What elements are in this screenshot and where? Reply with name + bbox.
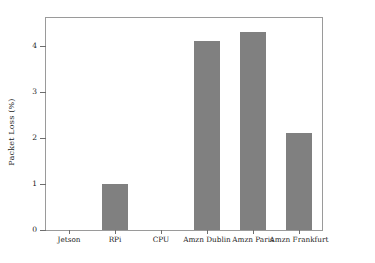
x-axis-tick [69, 230, 70, 234]
x-axis-tick [115, 230, 116, 234]
x-axis-tick [207, 230, 208, 234]
x-axis-tick [253, 230, 254, 234]
x-axis-tick-label: Amzn Dublin [183, 236, 231, 243]
y-axis-tick-label: 2 [32, 134, 37, 142]
bar [286, 133, 312, 230]
bars-group [46, 18, 322, 230]
y-axis-tick-label: 1 [32, 180, 37, 188]
x-axis-tick-label: Amzn Frankfurt [270, 236, 329, 243]
x-axis-tick-label: Amzn Paris [232, 236, 274, 243]
y-axis-tick [40, 230, 46, 231]
y-axis-tick [40, 138, 46, 139]
x-axis-tick-label: Jetson [57, 236, 80, 243]
x-axis-tick [299, 230, 300, 234]
bar [240, 32, 266, 230]
y-axis-tick [40, 184, 46, 185]
y-axis-tick-label: 4 [32, 42, 37, 50]
x-axis-tick [161, 230, 162, 234]
y-axis-label: Packet Loss (%) [7, 98, 16, 165]
x-axis-tick-label: CPU [153, 236, 170, 243]
bar [194, 41, 220, 230]
y-axis-tick-label: 3 [32, 88, 37, 96]
bar-chart-figure: Packet Loss (%) 01234JetsonRPiCPUAmzn Du… [0, 0, 375, 263]
bar [102, 184, 128, 230]
y-axis-tick [40, 92, 46, 93]
x-axis-tick-label: RPi [109, 236, 122, 243]
plot-area: 01234JetsonRPiCPUAmzn DublinAmzn ParisAm… [45, 17, 323, 231]
y-axis-tick [40, 46, 46, 47]
y-axis-tick-label: 0 [32, 226, 37, 234]
